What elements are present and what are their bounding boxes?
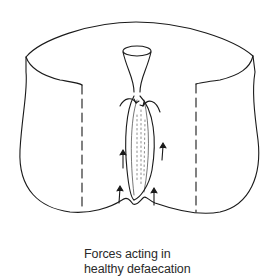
caption-line-1: Forces acting in (84, 247, 191, 262)
caption-line-2: healthy defaecation (84, 262, 191, 277)
figure-caption: Forces acting in healthy defaecation (84, 247, 191, 277)
body-outline (20, 22, 259, 213)
